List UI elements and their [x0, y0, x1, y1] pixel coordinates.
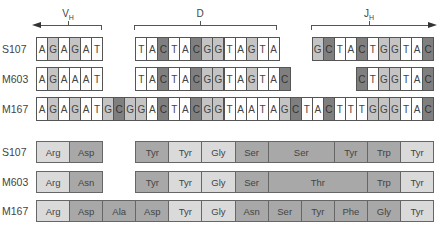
amino-acid-cell: Asp: [69, 200, 103, 222]
amino-acid-cell: Thr: [268, 171, 368, 193]
amino-acid-cell: Tyr: [400, 141, 434, 163]
amino-acid-cell: Ser: [268, 141, 335, 163]
segment-label-j: JH: [354, 8, 384, 21]
dna-row-label: S107: [2, 43, 34, 55]
nucleotide-cell: C: [422, 37, 434, 61]
protein-row-label: S107: [2, 146, 34, 158]
amino-acid-cell: Asp: [135, 200, 169, 222]
amino-acid-cell: Ser: [235, 141, 269, 163]
amino-acid-cell: Phe: [334, 200, 368, 222]
segment-tick: [369, 21, 370, 25]
segment-tick: [200, 21, 201, 25]
protein-row-label: M603: [2, 176, 34, 188]
amino-acid-cell: Asn: [235, 200, 269, 222]
amino-acid-cell: Arg: [36, 200, 70, 222]
segment-bracket-v: [36, 25, 102, 30]
amino-acid-cell: Tyr: [168, 171, 202, 193]
nucleotide-cell: A: [268, 37, 280, 61]
segment-bracket-d: [134, 25, 277, 30]
segment-label-v: VH: [53, 8, 83, 21]
segment-name: V: [62, 8, 69, 19]
amino-acid-cell: Tyr: [301, 200, 335, 222]
segment-tick: [68, 21, 69, 25]
amino-acid-cell: Trp: [367, 171, 401, 193]
amino-acid-cell: Tyr: [400, 200, 434, 222]
protein-row-label: M167: [2, 205, 34, 217]
dna-row-label: M167: [2, 103, 34, 115]
amino-acid-cell: Arg: [36, 141, 70, 163]
segment-label-d: D: [185, 8, 215, 19]
amino-acid-cell: Arg: [36, 171, 70, 193]
nucleotide-cell: C: [279, 67, 291, 91]
dna-row-label: M603: [2, 73, 34, 85]
segment-subscript: H: [369, 14, 374, 21]
amino-acid-cell: Tyr: [135, 171, 169, 193]
amino-acid-cell: Gly: [201, 200, 235, 222]
segment-subscript: H: [69, 14, 74, 21]
segment-bracket-j: [311, 25, 433, 30]
amino-acid-cell: Gly: [201, 141, 235, 163]
amino-acid-cell: Asp: [69, 141, 103, 163]
amino-acid-cell: Tyr: [135, 141, 169, 163]
amino-acid-cell: Gly: [201, 171, 235, 193]
amino-acid-cell: Tyr: [168, 141, 202, 163]
arrow-left-icon: [32, 22, 41, 28]
amino-acid-cell: Asn: [69, 171, 103, 193]
amino-acid-cell: Gly: [367, 200, 401, 222]
amino-acid-cell: Tyr: [334, 141, 368, 163]
amino-acid-cell: Ser: [268, 200, 302, 222]
nucleotide-cell: C: [422, 97, 434, 121]
nucleotide-cell: T: [91, 37, 103, 61]
amino-acid-cell: Tyr: [400, 171, 434, 193]
amino-acid-cell: Ala: [102, 200, 136, 222]
amino-acid-cell: Ser: [235, 171, 269, 193]
nucleotide-cell: C: [422, 67, 434, 91]
amino-acid-cell: Trp: [367, 141, 401, 163]
segment-name: D: [196, 8, 203, 19]
arrow-right-icon: [428, 22, 437, 28]
nucleotide-cell: T: [91, 67, 103, 91]
amino-acid-cell: Tyr: [168, 200, 202, 222]
